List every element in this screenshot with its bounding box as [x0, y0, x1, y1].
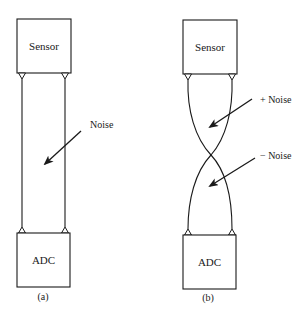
adc-terminals-b	[185, 229, 236, 235]
sensor-terminals-b	[185, 74, 236, 80]
parallel-wires	[22, 79, 65, 227]
minus-noise-annotation: − Noise	[210, 150, 292, 186]
plus-noise-annotation: + Noise	[210, 94, 292, 127]
sensor-terminals-a	[19, 73, 69, 79]
noise-arrow-icon	[45, 131, 81, 164]
sensor-label-a: Sensor	[29, 40, 59, 52]
panel-b: Sensor ADC + Noise	[183, 20, 292, 304]
wiring-diagram: Sensor ADC Noise (a)	[0, 0, 306, 314]
adc-block-a: ADC	[17, 233, 70, 287]
adc-label-b: ADC	[198, 256, 221, 268]
panel-a: Sensor ADC Noise (a)	[17, 19, 114, 303]
sensor-block-a: Sensor	[17, 19, 71, 73]
caption-a: (a)	[37, 291, 48, 303]
minus-noise-label: − Noise	[260, 150, 292, 161]
adc-terminals-a	[19, 227, 69, 233]
sensor-label-b: Sensor	[195, 41, 225, 53]
noise-label-a: Noise	[90, 119, 114, 130]
sensor-block-b: Sensor	[183, 20, 237, 74]
adc-label-a: ADC	[32, 254, 55, 266]
caption-b: (b)	[202, 292, 214, 304]
noise-annotation-a: Noise	[45, 119, 114, 164]
twisted-pair-wires	[188, 80, 232, 229]
plus-noise-label: + Noise	[260, 94, 292, 105]
adc-block-b: ADC	[183, 235, 236, 289]
